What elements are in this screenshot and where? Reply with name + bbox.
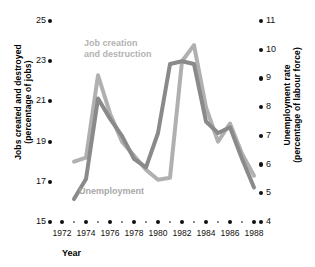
x-axis-title: Year <box>62 248 81 258</box>
chart-figure: Jobs created and destroyed (percentage o… <box>0 0 315 267</box>
series-label-job-creation: Job creation and destruction <box>84 38 152 60</box>
series-label-job-creation-line2: and destruction <box>84 49 152 59</box>
chart-line-job-creation-and-destruction <box>74 45 254 180</box>
series-label-unemployment: Unemployment <box>79 186 144 197</box>
chart-plot-area <box>0 0 315 267</box>
series-label-job-creation-line1: Job creation <box>84 38 138 48</box>
